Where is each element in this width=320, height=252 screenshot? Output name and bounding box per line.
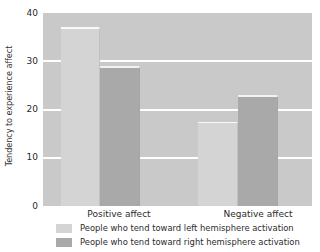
bar-right-edge: [139, 66, 140, 206]
y-tick-40: 40: [14, 9, 38, 18]
plot-area: [43, 13, 312, 206]
bar-negative-left-hemisphere: [198, 122, 238, 207]
legend-label-right-hemisphere: People who tend toward right hemisphere …: [80, 237, 300, 247]
bar-right-edge: [277, 95, 278, 206]
bar-positive-right-hemisphere: [100, 66, 140, 206]
bar-top-highlight: [61, 27, 100, 29]
legend-item-right-hemisphere: People who tend toward right hemisphere …: [56, 235, 306, 249]
y-tick-20: 20: [14, 105, 38, 114]
y-axis-tick-labels: 40 30 20 10 0: [14, 0, 38, 252]
bar-top-highlight: [198, 122, 238, 124]
legend-label-left-hemisphere: People who tend toward left hemisphere a…: [80, 223, 294, 233]
y-tick-30: 30: [14, 57, 38, 66]
bar-positive-left-hemisphere: [61, 27, 100, 206]
bar-top-highlight: [238, 95, 278, 97]
legend-item-left-hemisphere: People who tend toward left hemisphere a…: [56, 221, 306, 235]
x-tick-negative-affect: Negative affect: [224, 208, 293, 220]
y-tick-10: 10: [14, 153, 38, 162]
bar-negative-right-hemisphere: [238, 95, 278, 206]
light-gray-swatch-icon: [56, 224, 72, 233]
y-tick-0: 0: [14, 202, 38, 211]
x-tick-positive-affect: Positive affect: [87, 208, 150, 220]
chart-legend: People who tend toward left hemisphere a…: [56, 221, 306, 249]
x-axis-tick-labels: Positive affect Negative affect: [43, 208, 312, 222]
bar-chart-figure: Tendency to experience affect 40 30 20 1…: [0, 0, 320, 252]
dark-gray-swatch-icon: [56, 238, 72, 247]
bar-top-highlight: [100, 66, 140, 68]
